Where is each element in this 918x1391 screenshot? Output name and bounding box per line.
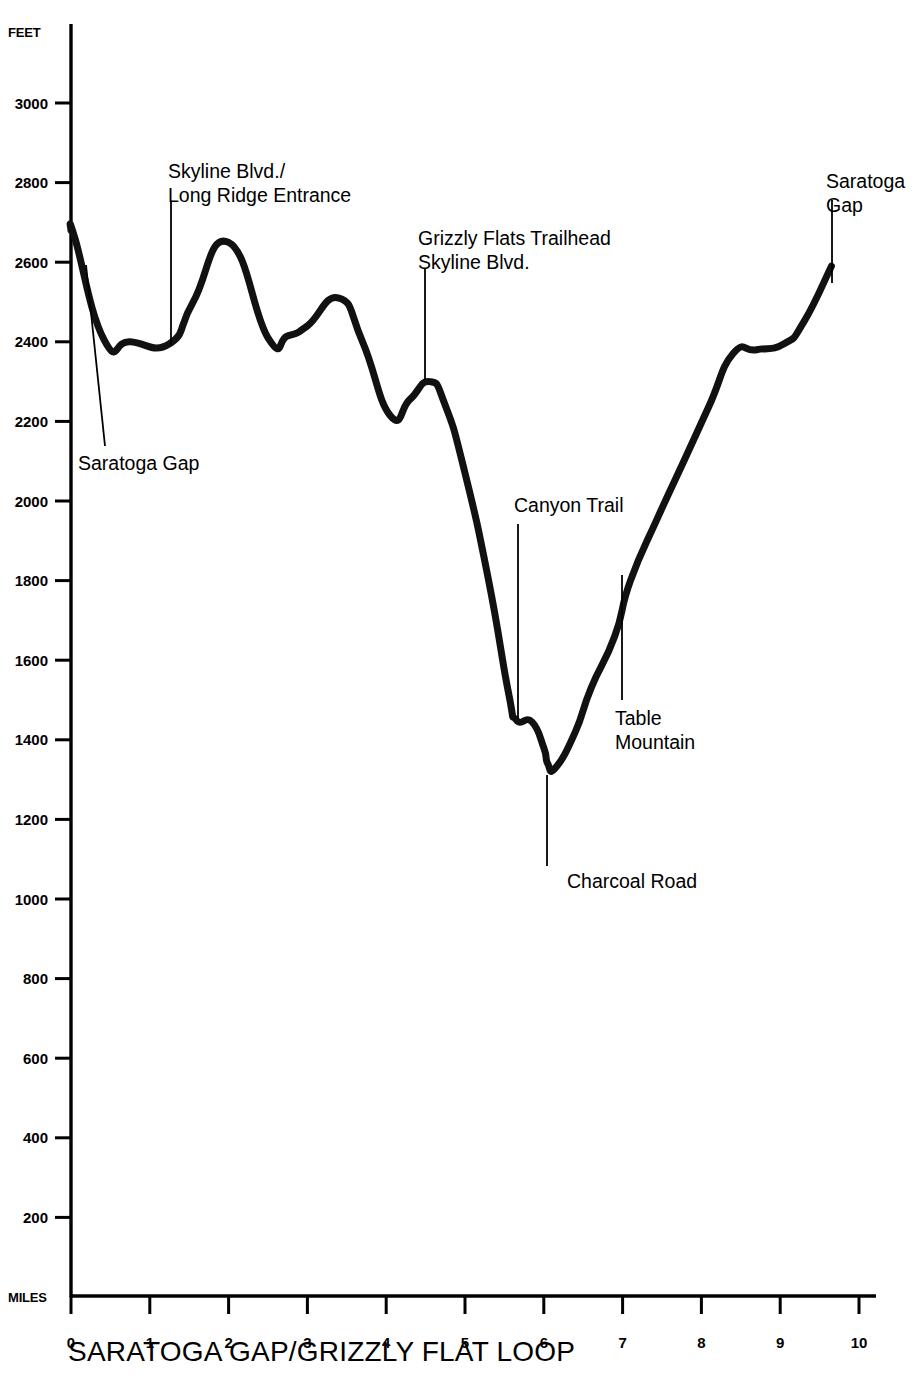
annotation-leader-line — [86, 265, 105, 446]
y-tick-label: 2200 — [15, 413, 48, 430]
y-tick-label: 200 — [23, 1209, 48, 1226]
annotation-label-line: Mountain — [615, 731, 695, 753]
y-tick-label: 3000 — [15, 95, 48, 112]
y-axis-label: FEET — [8, 25, 41, 40]
chart-title: SARATOGA GAP/GRIZZLY FLAT LOOP — [68, 1336, 575, 1368]
x-axis-label: MILES — [8, 1290, 47, 1305]
y-tick-label: 800 — [23, 970, 48, 987]
x-tick-label: 10 — [851, 1334, 868, 1351]
annotation-label: SaratogaGap — [826, 170, 905, 216]
annotation-label-line: Skyline Blvd. — [418, 251, 530, 273]
x-tick-label: 9 — [776, 1334, 784, 1351]
annotation-label: Saratoga Gap — [78, 452, 200, 474]
annotation-label-line: Canyon Trail — [514, 494, 623, 516]
annotation-charcoal-road: Charcoal Road — [547, 775, 697, 892]
y-tick-label: 400 — [23, 1129, 48, 1146]
annotation-label: Charcoal Road — [567, 870, 697, 892]
annotation-label: Skyline Blvd./Long Ridge Entrance — [168, 160, 351, 206]
elevation-series — [70, 224, 831, 772]
annotation-canyon-trail: Canyon Trail — [514, 494, 623, 718]
x-tick-label: 7 — [618, 1334, 626, 1351]
y-tick-label: 2000 — [15, 493, 48, 510]
annotation-label-line: Saratoga Gap — [78, 452, 200, 474]
y-tick-label: 2800 — [15, 174, 48, 191]
annotation-label-line: Table — [615, 707, 662, 729]
annotation-grizzly-flats-trailhead-skyline-blvd: Grizzly Flats TrailheadSkyline Blvd. — [418, 227, 611, 380]
y-tick-label: 2400 — [15, 333, 48, 350]
annotation-label-line: Grizzly Flats Trailhead — [418, 227, 611, 249]
annotation-label: Grizzly Flats TrailheadSkyline Blvd. — [418, 227, 611, 273]
annotation-label-line: Skyline Blvd./ — [168, 160, 286, 182]
annotation-saratoga-gap-end: SaratogaGap — [826, 170, 905, 283]
x-tick-label: 8 — [697, 1334, 705, 1351]
y-tick-label: 600 — [23, 1050, 48, 1067]
annotation-saratoga-gap-start: Saratoga Gap — [78, 265, 200, 474]
annotation-label: TableMountain — [615, 707, 695, 753]
annotation-label-line: Gap — [826, 194, 863, 216]
y-tick-label: 1800 — [15, 572, 48, 589]
elevation-line — [70, 224, 831, 772]
y-tick-label: 1600 — [15, 652, 48, 669]
annotation-label-line: Charcoal Road — [567, 870, 697, 892]
annotation-label-line: Saratoga — [826, 170, 905, 192]
annotation-label: Canyon Trail — [514, 494, 623, 516]
y-tick-label: 1400 — [15, 731, 48, 748]
annotation-label-line: Long Ridge Entrance — [168, 184, 351, 206]
y-tick-label: 2600 — [15, 254, 48, 271]
y-tick-label: 1200 — [15, 811, 48, 828]
y-tick-label: 1000 — [15, 891, 48, 908]
elevation-profile-chart: FEET MILES 20040060080010001200140016001… — [0, 0, 918, 1391]
profile-plot-area: FEET MILES 20040060080010001200140016001… — [0, 0, 918, 1391]
y-axis-ticks: 2004006008001000120014001600180020002200… — [15, 95, 71, 1226]
